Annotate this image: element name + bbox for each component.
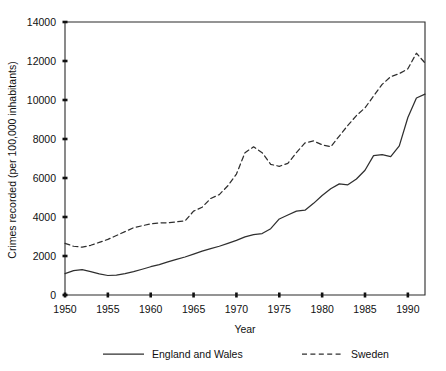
y-tick-label: 14000 — [27, 16, 56, 28]
x-tick-label: 1965 — [182, 303, 206, 315]
x-axis-ticks: 195019551960196519701975198019851990 — [53, 293, 419, 316]
x-tick-label: 1970 — [225, 303, 249, 315]
y-tick-label: 2000 — [33, 250, 57, 262]
y-tick-label: 0 — [50, 289, 56, 301]
series-line-england-and-wales — [65, 94, 425, 275]
x-tick-label: 1950 — [53, 303, 77, 315]
y-tick-label: 10000 — [27, 94, 56, 106]
data-series-group — [65, 53, 425, 275]
x-tick-label: 1975 — [268, 303, 292, 315]
series-line-sweden — [65, 53, 425, 247]
legend-label-sweden: Sweden — [351, 348, 389, 360]
y-tick-label: 6000 — [33, 172, 57, 184]
chart-figure: 02000400060008000100001200014000 1950195… — [0, 0, 446, 371]
x-tick-label: 1960 — [139, 303, 163, 315]
x-tick-label: 1980 — [310, 303, 334, 315]
y-tick-label: 8000 — [33, 133, 57, 145]
crime-rate-line-chart: 02000400060008000100001200014000 1950195… — [0, 0, 446, 371]
x-axis-title: Year — [234, 323, 256, 335]
x-tick-label: 1985 — [353, 303, 377, 315]
y-tick-label: 12000 — [27, 55, 56, 67]
plot-frame — [65, 22, 425, 295]
legend-label-england-and-wales: England and Wales — [152, 348, 243, 360]
x-tick-label: 1990 — [396, 303, 420, 315]
x-tick-label: 1955 — [96, 303, 120, 315]
chart-legend: England and Wales Sweden — [103, 348, 389, 360]
y-tick-label: 4000 — [33, 211, 57, 223]
y-axis-ticks: 02000400060008000100001200014000 — [27, 16, 68, 301]
y-axis-title: Crimes recorded (per 100,000 inhabitants… — [6, 61, 18, 258]
